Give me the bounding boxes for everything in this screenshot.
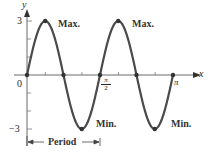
curve-point <box>25 73 29 77</box>
y-axis-arrow-icon <box>24 9 30 17</box>
y-axis-label: y <box>22 0 26 10</box>
x-axis-label: x <box>199 69 203 79</box>
curve-point <box>153 127 157 131</box>
min-label-2: Min. <box>171 119 191 129</box>
curve-point <box>116 19 120 23</box>
max-label-2: Max. <box>132 19 154 29</box>
period-label: Period <box>48 137 76 147</box>
curve-point <box>80 127 84 131</box>
x-tick-pi: π <box>174 78 179 87</box>
max-label-1: Max. <box>58 19 80 29</box>
origin-label: 0 <box>17 79 22 89</box>
y-tick-max: 3 <box>17 16 22 26</box>
curve-point <box>61 73 65 77</box>
half-pi-denominator: 2 <box>101 85 111 92</box>
curve-point <box>43 19 47 23</box>
min-label-1: Min. <box>96 119 116 129</box>
y-tick-min: −3 <box>9 124 20 134</box>
x-tick-half-pi: π 2 <box>101 77 111 92</box>
curve-point <box>134 73 138 77</box>
